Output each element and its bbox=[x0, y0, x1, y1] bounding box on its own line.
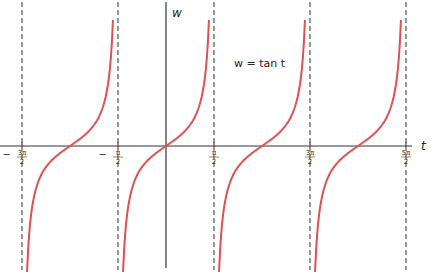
svg-text:2: 2 bbox=[308, 158, 312, 166]
svg-text:2: 2 bbox=[404, 158, 408, 166]
svg-text:2: 2 bbox=[116, 158, 120, 166]
svg-text:2: 2 bbox=[212, 158, 216, 166]
tan-chart: −3π2−π2π23π25π2 w t w = tan t bbox=[0, 0, 435, 277]
svg-text:5π: 5π bbox=[402, 149, 411, 157]
svg-text:3π: 3π bbox=[18, 149, 27, 157]
svg-text:π: π bbox=[116, 149, 121, 157]
svg-text:π: π bbox=[212, 149, 217, 157]
svg-text:3π: 3π bbox=[306, 149, 315, 157]
svg-text:−: − bbox=[3, 149, 11, 160]
w-axis-label: w bbox=[172, 6, 182, 20]
t-axis-label: t bbox=[421, 139, 427, 153]
function-label: w = tan t bbox=[234, 57, 286, 70]
svg-text:2: 2 bbox=[20, 158, 24, 166]
asymptote-lines bbox=[22, 2, 406, 270]
svg-text:−: − bbox=[99, 149, 107, 160]
